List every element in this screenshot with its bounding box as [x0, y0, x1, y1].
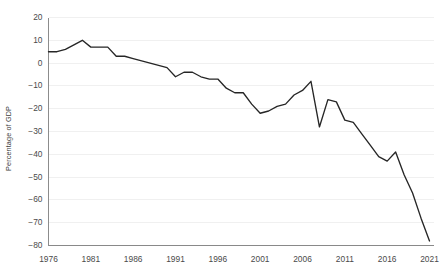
plot-area [0, 0, 444, 277]
gridlines [49, 18, 434, 246]
line-chart: Percentage of GDP 20100−10−20−30−40−50−6… [0, 0, 444, 277]
series-line-percentage-of-gdp [49, 40, 430, 241]
